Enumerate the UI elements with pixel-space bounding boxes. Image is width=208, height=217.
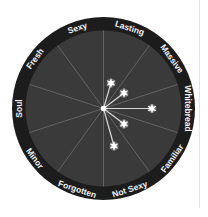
radial-diagram: LastingMassiveWhitebreadFamiliarNot Sexy… <box>0 0 208 217</box>
center-hub <box>101 106 107 112</box>
ring-label: Soul <box>14 99 24 117</box>
ring-label: Whitebread <box>183 85 193 131</box>
